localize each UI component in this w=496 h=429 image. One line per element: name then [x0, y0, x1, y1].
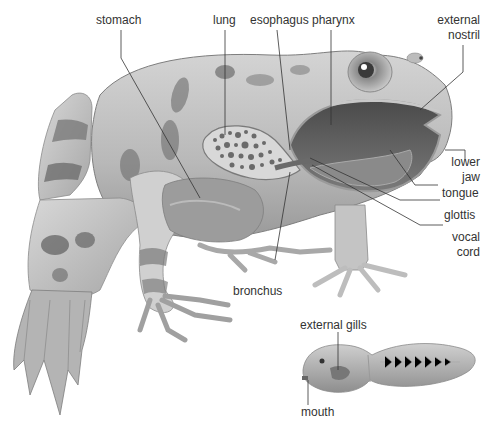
hind-leg-lower: [14, 198, 144, 415]
label-glottis: glottis: [444, 208, 475, 223]
hind-leg-upper: [38, 93, 92, 200]
stomach-region: [162, 178, 263, 242]
label-lower-jaw-line1: lower: [440, 155, 480, 170]
label-pharynx: pharynx: [312, 13, 355, 28]
tadpole: [302, 344, 475, 393]
label-lower-jaw-line2: jaw: [440, 170, 480, 185]
label-tongue: tongue: [442, 186, 479, 201]
label-esophagus: esophagus: [250, 13, 309, 28]
label-external-nostril-line2: nostril: [430, 28, 480, 43]
label-vocal-cord-line2: cord: [440, 245, 480, 260]
label-bronchus: bronchus: [233, 284, 282, 299]
frog-anatomy-diagram: stomach lung esophagus pharynx external …: [0, 0, 496, 429]
label-vocal-cord: vocal cord: [440, 230, 480, 260]
label-vocal-cord-line1: vocal: [440, 230, 480, 245]
label-stomach: stomach: [96, 13, 141, 28]
label-lung: lung: [213, 13, 236, 28]
label-mouth: mouth: [301, 405, 334, 420]
label-external-nostril-line1: external: [430, 13, 480, 28]
label-external-gills: external gills: [300, 318, 367, 333]
label-lower-jaw: lower jaw: [440, 155, 480, 185]
rear-hind-foot: [200, 245, 330, 270]
frog-illustration: [0, 0, 496, 429]
label-external-nostril: external nostril: [430, 13, 480, 43]
